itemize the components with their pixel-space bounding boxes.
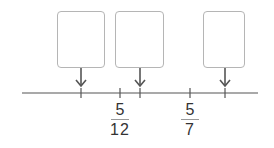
fraction-label-5-12: 5 12: [105, 102, 135, 138]
fraction-denominator: 7: [175, 122, 205, 138]
arrow-down-icon: [135, 68, 145, 86]
fraction-numerator: 5: [175, 102, 205, 117]
arrow-down-icon: [220, 68, 230, 86]
fraction-bar: [111, 119, 129, 120]
fraction-label-5-7: 5 7: [175, 102, 205, 138]
fraction-bar: [181, 119, 199, 120]
arrow-down-icon: [76, 68, 86, 86]
fraction-numerator: 5: [105, 102, 135, 117]
number-line-graphic: [0, 0, 274, 148]
fraction-denominator: 12: [105, 122, 135, 138]
